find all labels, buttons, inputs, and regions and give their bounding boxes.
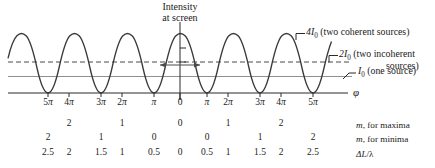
- row-caption-minima: m, for minima: [356, 134, 408, 144]
- data-row-value: 1: [99, 132, 104, 143]
- data-row-value: 1: [120, 147, 125, 158]
- callout-4i0: 4I0 (two coherent sources): [306, 27, 409, 40]
- data-row-value: 2: [279, 147, 284, 158]
- row-caption-maxima-symbol: m: [356, 120, 363, 130]
- data-row-value: 2: [67, 147, 72, 158]
- callout-i0: I0 (one source): [358, 66, 416, 79]
- intensity-curve-path: [8, 33, 332, 93]
- screen-intensity-label-line2: at screen: [162, 12, 197, 23]
- x-axis-tick-label: π: [205, 97, 210, 108]
- callout-2i0-level: 2I0: [339, 48, 351, 59]
- data-row-value: 2: [46, 132, 51, 143]
- x-axis-tick-label: 5π: [43, 97, 53, 108]
- x-axis-tick-label: 4π: [64, 97, 74, 108]
- data-row-value: 0.5: [201, 147, 213, 158]
- x-axis-tick-label: 0: [178, 97, 183, 108]
- x-axis-tick-label: 2π: [223, 97, 233, 108]
- data-row-value: 2.5: [307, 147, 319, 158]
- data-row-value: 2.5: [42, 147, 54, 158]
- data-row-value: 0: [178, 147, 183, 158]
- data-row-value: 1: [120, 118, 125, 129]
- axis-variable-phi: φ: [353, 86, 359, 98]
- data-row-value: 0: [152, 132, 157, 143]
- x-axis-tick-label: 4π: [276, 97, 286, 108]
- x-axis-tick-label: 2π: [117, 97, 127, 108]
- x-axis-tick-label: 5π: [308, 97, 318, 108]
- data-row-value: 2: [279, 118, 284, 129]
- data-row-value: 2: [311, 132, 316, 143]
- data-row-value: 0.5: [148, 147, 160, 158]
- callout-2i0-text: (two incoherent: [353, 48, 415, 59]
- x-axis-tick-label: 3π: [255, 97, 265, 108]
- leader-line-4i0: [296, 34, 305, 41]
- row-caption-path-difference-symbol: ΔL: [356, 149, 367, 159]
- row-caption-minima-symbol: m: [356, 134, 363, 144]
- x-axis-tick-label: π: [152, 97, 157, 108]
- data-row-value: 1.5: [95, 147, 107, 158]
- data-row-value: 1: [226, 147, 231, 158]
- data-row-value: 0: [205, 132, 210, 143]
- x-axis-tick-label: 3π: [96, 97, 106, 108]
- data-row-value: 0: [178, 118, 183, 129]
- data-row-value: 1: [226, 118, 231, 129]
- data-row-value: 1: [258, 132, 263, 143]
- interference-intensity-figure: Intensity at screen 4I0 (two coherent so…: [0, 0, 435, 168]
- screen-intensity-label-line1: Intensity: [162, 1, 197, 12]
- callout-4i0-level: 4I0: [306, 26, 318, 37]
- row-caption-path-difference-rest: /λ: [367, 149, 374, 159]
- data-row-value: 1.5: [254, 147, 266, 158]
- row-caption-minima-rest: , for minima: [363, 134, 409, 144]
- screen-intensity-label: Intensity at screen: [162, 1, 197, 23]
- row-caption-maxima: m, for maxima: [356, 120, 410, 130]
- data-row-value: 2: [67, 118, 72, 129]
- callout-i0-text: (one source): [367, 65, 416, 76]
- row-caption-maxima-rest: , for maxima: [363, 120, 410, 130]
- row-caption-path-difference: ΔL/λ: [356, 149, 374, 159]
- leader-line-2i0: [329, 56, 338, 63]
- callout-i0-level: I0: [358, 65, 365, 76]
- callout-4i0-text: (two coherent sources): [320, 26, 409, 37]
